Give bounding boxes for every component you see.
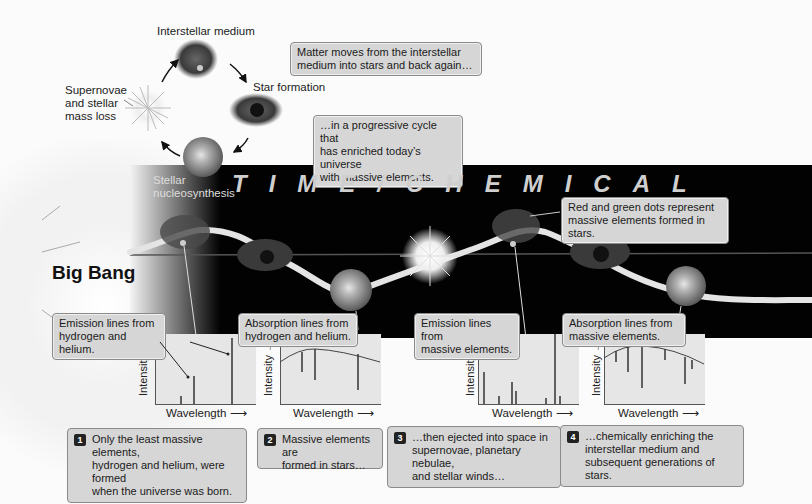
step-number-badge: 4 (567, 431, 579, 443)
step-2: 2 Massive elements are formed in stars… (257, 428, 383, 469)
step-line: …chemically enriching the (585, 430, 737, 443)
step-line: interstellar medium and (585, 443, 737, 456)
spectrum-label-line: hydrogen and helium. (245, 330, 351, 343)
spectrum-label-line: massive elements. (569, 330, 679, 343)
step-number-badge: 3 (394, 432, 406, 444)
step-line: hydrogen and helium, were formed (92, 459, 240, 485)
spectrum-label-line: Absorption lines from (569, 317, 679, 330)
x-axis-label: Wavelength ⟶ (618, 406, 699, 420)
x-axis-label: Wavelength ⟶ (293, 406, 374, 420)
step-line: subsequent generations of stars. (585, 456, 737, 482)
y-axis-label: Intensity → (262, 341, 274, 396)
x-axis-label: Wavelength ⟶ (492, 406, 573, 420)
spectrum-label-line: Emission lines from (421, 317, 513, 343)
step-line: formed in stars… (282, 459, 376, 472)
step-line: supernovae, planetary nebulae, (412, 444, 554, 470)
spectrum-label-line: Absorption lines from (245, 317, 351, 330)
step-4: 4 …chemically enriching the interstellar… (560, 425, 744, 487)
step-1: 1 Only the least massive elements, hydro… (67, 428, 247, 503)
step-line: Massive elements are (282, 433, 376, 459)
spectrum-label-line: massive elements. (421, 343, 513, 356)
spectrum-label-3: Emission lines from massive elements. (414, 313, 520, 360)
step-line: …then ejected into space in (412, 431, 554, 444)
y-axis-label: Intensity → (590, 341, 602, 396)
step-line: Only the least massive elements, (92, 433, 240, 459)
spectrum-label-4: Absorption lines from massive elements. (562, 313, 686, 347)
step-3: 3 …then ejected into space in supernovae… (387, 426, 561, 488)
step-number-badge: 1 (74, 434, 86, 446)
step-line: and stellar winds… (412, 470, 554, 483)
step-number-badge: 2 (264, 434, 276, 446)
spectrum-label-2: Absorption lines from hydrogen and heliu… (238, 313, 358, 347)
step-line: when the universe was born. (92, 485, 240, 498)
